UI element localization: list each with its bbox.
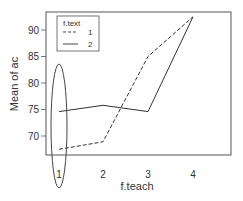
y-axis-title: Mean of ac — [8, 56, 20, 111]
x-tick-label: 4 — [190, 169, 196, 180]
legend: f.text 1 2 — [57, 16, 99, 51]
interaction-plot: 7075808590 1234 Mean of ac f.teach f.tex… — [0, 0, 243, 201]
x-axis-title: f.teach — [120, 180, 153, 192]
y-tick-label: 70 — [28, 131, 40, 142]
legend-title: f.text — [63, 19, 81, 28]
x-tick-label: 3 — [145, 169, 151, 180]
y-tick-label: 75 — [28, 104, 40, 115]
x-tick-label: 2 — [100, 169, 106, 180]
y-tick-label: 80 — [28, 78, 40, 89]
y-axis: 7075808590 — [28, 25, 46, 142]
y-tick-label: 85 — [28, 51, 40, 62]
legend-label-2: 2 — [88, 40, 93, 49]
legend-label-1: 1 — [88, 28, 93, 37]
x-axis: 1234 — [56, 169, 196, 180]
y-tick-label: 90 — [28, 25, 40, 36]
x-tick-label: 1 — [56, 169, 62, 180]
